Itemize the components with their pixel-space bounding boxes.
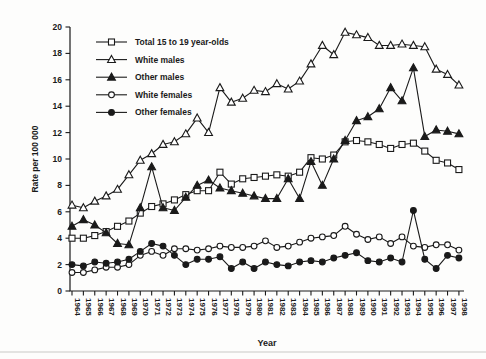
series-other-males-marker-1977 [216,184,224,191]
series-other-females-marker-1982 [274,262,280,268]
series-other-males-marker-1975 [193,181,201,188]
y-tick-label-10: 10 [53,154,63,164]
series-white-females-marker-1975 [194,247,200,253]
series-other-females-marker-1975 [194,256,200,262]
x-tick-label-1982: 1982 [278,298,287,316]
series-white-females-marker-1981 [263,238,269,244]
series-white-females-marker-1966 [92,267,98,273]
series-total-marker-1997 [445,160,451,166]
series-other-females-marker-1984 [297,259,303,265]
series-white-females-marker-1992 [388,241,394,247]
x-axis-title: Year [257,338,277,348]
series-total-marker-1990 [365,139,371,145]
series-white-males-marker-1984 [296,77,304,84]
series-other-males-marker-1964 [68,222,76,229]
series-white-males-marker-1988 [341,28,349,35]
series-other-females-marker-1990 [365,258,371,264]
series-other-males-marker-1986 [318,181,326,188]
x-tick-label-1966: 1966 [96,298,105,316]
series-white-males-marker-1991 [375,41,383,48]
series-white-females-marker-1977 [217,243,223,249]
series-total-marker-1973 [171,197,177,203]
series-total-marker-1977 [217,169,223,175]
y-tick-label-8: 8 [57,180,62,190]
series-other-females-marker-1987 [331,255,337,261]
series-total-marker-1981 [262,173,268,179]
series-white-males-marker-1970 [136,156,144,163]
series-white-females-marker-1984 [297,239,303,245]
legend-other-males-marker [108,73,116,80]
suicide-rates-line-chart: 0246810121416182019641965196619671968196… [0,0,486,359]
series-other-males-marker-1984 [296,195,304,202]
y-tick-label-0: 0 [57,286,62,296]
series-other-females-marker-1974 [183,262,189,268]
series-other-males-marker-1965 [79,216,87,223]
legend-white-males-label: White males [135,55,185,65]
series-other-females-marker-1983 [285,263,291,269]
series-total-marker-1976 [206,188,212,194]
series-total-marker-1968 [115,223,121,229]
series-white-females-marker-1997 [445,242,451,248]
series-white-males-marker-1973 [171,138,179,145]
series-other-females-marker-1981 [263,259,269,265]
series-other-females-marker-1972 [160,243,166,249]
series-other-males-marker-1995 [421,132,429,139]
series-other-females-marker-1992 [388,255,394,261]
series-total-marker-1994 [410,140,416,146]
series-other-males-marker-1971 [148,163,156,170]
figure-page: 0246810121416182019641965196619671968196… [0,0,486,359]
series-white-females-marker-1976 [206,246,212,252]
series-white-females-marker-1972 [160,252,166,258]
series-other-females-marker-1970 [137,249,143,255]
series-other-females-marker-1991 [376,259,382,265]
series-other-males-marker-1994 [410,64,418,71]
y-tick-label-18: 18 [53,48,63,58]
y-tick-label-12: 12 [53,128,63,138]
series-other-males-marker-1996 [432,126,440,133]
series-total-marker-1971 [149,204,155,210]
series-total-marker-1965 [80,235,86,241]
series-white-males-marker-1985 [307,60,315,67]
series-white-males-marker-1982 [273,80,281,87]
series-other-females-marker-1971 [149,241,155,247]
y-tick-label-20: 20 [53,22,63,32]
series-white-males-marker-1986 [318,41,326,48]
y-tick-label-6: 6 [57,207,62,217]
series-total-marker-1996 [433,157,439,163]
x-tick-label-1984: 1984 [301,298,310,316]
y-tick-label-4: 4 [57,233,62,243]
series-white-males-line [72,32,459,208]
legend-other-females-marker [109,110,115,116]
x-tick-label-1970: 1970 [141,298,150,316]
series-other-males-marker-1991 [375,105,383,112]
series-other-females-marker-1978 [228,266,234,272]
x-tick-label-1997: 1997 [449,298,458,316]
series-total-marker-1979 [240,176,246,182]
x-tick-label-1988: 1988 [346,298,355,316]
x-tick-label-1979: 1979 [244,298,253,316]
series-white-males-marker-1987 [330,51,338,58]
series-total-marker-1995 [422,148,428,154]
x-tick-label-1971: 1971 [153,298,162,316]
x-tick-label-1965: 1965 [84,298,93,316]
x-tick-label-1976: 1976 [210,298,219,316]
series-white-males-marker-1980 [250,86,258,93]
series-total-marker-1989 [354,138,360,144]
series-white-males-marker-1966 [91,197,99,204]
series-other-females-marker-1964 [69,262,75,268]
series-white-females-marker-1988 [342,223,348,229]
legend-other-females-label: Other females [135,107,192,117]
series-other-females-marker-1980 [251,266,257,272]
x-tick-label-1978: 1978 [232,298,241,316]
series-other-females-marker-1977 [217,254,223,260]
series-white-males-marker-1983 [284,85,292,92]
x-tick-label-1980: 1980 [255,298,264,316]
x-tick-label-1994: 1994 [414,298,423,316]
x-tick-label-1992: 1992 [392,298,401,316]
series-other-females-marker-1965 [80,263,86,269]
x-tick-label-1969: 1969 [130,298,139,316]
series-white-males-marker-1977 [216,84,224,91]
x-tick-label-1985: 1985 [312,298,321,316]
x-tick-label-1986: 1986 [323,298,332,316]
series-white-males-marker-1964 [68,201,76,208]
